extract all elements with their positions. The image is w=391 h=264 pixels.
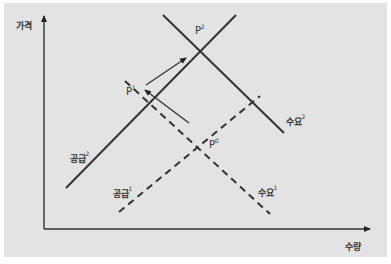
x-axis-label: 수량 [345,240,360,253]
supply2-curve [66,15,236,188]
demand2-label: 수요2 [286,115,305,128]
point-p1-label: P1 [126,86,135,97]
demand1-label: 수요1 [258,186,277,199]
point-p2-label: P2 [195,25,204,36]
supply-demand-diagram [0,0,391,264]
supply1-label: 공급1 [113,187,132,200]
demand2-curve [163,15,284,133]
supply2-label: 공급2 [70,152,89,165]
point-p0-label: P0 [209,139,218,150]
y-axis-label: 가격 [16,19,31,32]
demand1-curve [125,81,270,214]
